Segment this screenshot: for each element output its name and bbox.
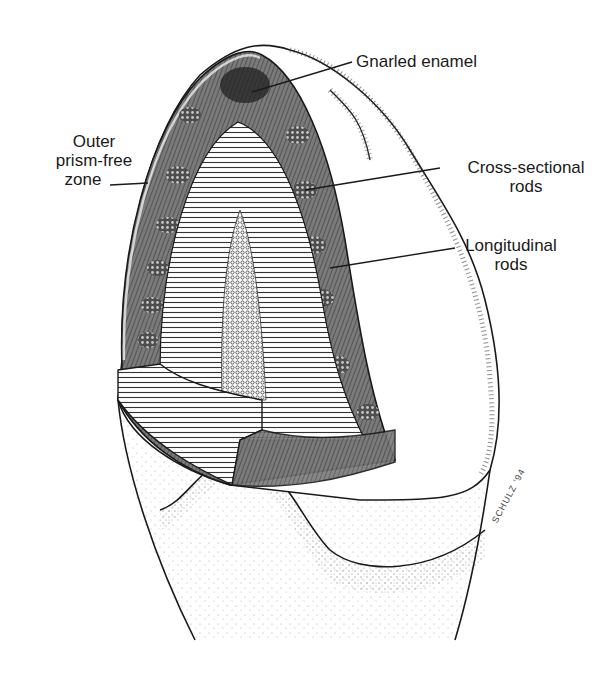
label-outer-prism-free-zone: Outer prism-free zone: [48, 132, 140, 189]
label-long-line2: rods: [457, 255, 565, 274]
label-outer-line2: prism-free: [48, 151, 140, 170]
label-outer-line3: zone: [26, 170, 140, 189]
tooth-illustration: [0, 0, 611, 676]
tooth-diagram: Gnarled enamel Outer prism-free zone Cro…: [0, 0, 611, 676]
label-cross-line2: rods: [443, 177, 609, 196]
label-cross-sectional-rods: Cross-sectional rods: [443, 158, 609, 196]
label-gnarled-enamel: Gnarled enamel: [356, 52, 477, 71]
gnarled-enamel-region: [220, 67, 270, 103]
label-cross-line1: Cross-sectional: [443, 158, 609, 177]
label-longitudinal-rods: Longitudinal rods: [457, 236, 565, 274]
label-long-line1: Longitudinal: [457, 236, 565, 255]
label-outer-line1: Outer: [48, 132, 140, 151]
